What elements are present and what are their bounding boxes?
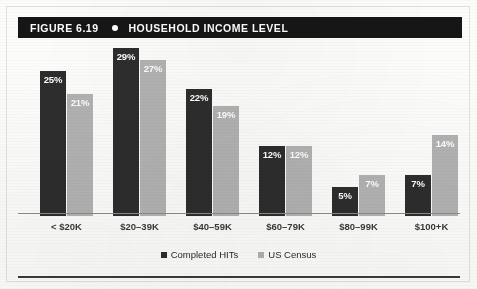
legend-item[interactable]: US Census — [258, 249, 316, 260]
bar-group: 12%12% — [259, 48, 312, 216]
x-axis-tick-label: $80–99K — [319, 221, 399, 232]
bar-value-label: 7% — [405, 179, 431, 189]
x-axis-labels: < $20K$20–39K$40–59K$60–79K$80–99K$100+K — [18, 221, 462, 237]
bar-completed-hits[interactable]: 7% — [405, 175, 431, 216]
x-axis-tick-label: $60–79K — [246, 221, 326, 232]
bar-value-label: 25% — [40, 75, 66, 85]
bar-value-label: 14% — [432, 139, 458, 149]
bar-us-census[interactable]: 21% — [67, 94, 93, 216]
bar-group: 25%21% — [40, 48, 93, 216]
legend-label: US Census — [268, 249, 316, 260]
bar-value-label: 5% — [332, 191, 358, 201]
figure-title-bar: FIGURE 6.19 HOUSEHOLD INCOME LEVEL — [18, 17, 462, 38]
bar-completed-hits[interactable]: 29% — [113, 48, 139, 216]
bar-value-label: 27% — [140, 64, 166, 74]
bar-us-census[interactable]: 7% — [359, 175, 385, 216]
bar-us-census[interactable]: 12% — [286, 146, 312, 216]
bar-us-census[interactable]: 14% — [432, 135, 458, 216]
bar-completed-hits[interactable]: 12% — [259, 146, 285, 216]
legend-item[interactable]: Completed HITs — [161, 249, 239, 260]
chart-plot-area: 25%21%29%27%22%19%12%12%5%7%7%14% — [18, 48, 462, 216]
bar-value-label: 12% — [259, 150, 285, 160]
x-axis-tick-label: < $20K — [27, 221, 107, 232]
bottom-rule — [18, 276, 460, 278]
chart-legend: Completed HITsUS Census — [0, 249, 477, 260]
legend-swatch-icon — [258, 252, 264, 258]
bar-group: 22%19% — [186, 48, 239, 216]
bar-group: 29%27% — [113, 48, 166, 216]
figure-number: FIGURE 6.19 — [30, 22, 99, 34]
scanned-page: FIGURE 6.19 HOUSEHOLD INCOME LEVEL 25%21… — [0, 0, 477, 289]
bar-value-label: 7% — [359, 179, 385, 189]
bar-completed-hits[interactable]: 5% — [332, 187, 358, 216]
bar-group: 7%14% — [405, 48, 458, 216]
bar-completed-hits[interactable]: 25% — [40, 71, 66, 216]
bar-us-census[interactable]: 19% — [213, 106, 239, 216]
legend-swatch-icon — [161, 252, 167, 258]
bar-value-label: 29% — [113, 52, 139, 62]
x-axis-tick-label: $100+K — [392, 221, 472, 232]
bar-value-label: 12% — [286, 150, 312, 160]
bar-group: 5%7% — [332, 48, 385, 216]
x-axis-line — [18, 213, 460, 214]
bar-value-label: 22% — [186, 93, 212, 103]
bar-completed-hits[interactable]: 22% — [186, 89, 212, 216]
x-axis-tick-label: $20–39K — [100, 221, 180, 232]
bar-value-label: 21% — [67, 98, 93, 108]
page-title: HOUSEHOLD INCOME LEVEL — [129, 22, 289, 34]
bullet-dot-icon — [112, 25, 118, 31]
bar-us-census[interactable]: 27% — [140, 60, 166, 216]
legend-label: Completed HITs — [171, 249, 239, 260]
x-axis-tick-label: $40–59K — [173, 221, 253, 232]
bar-value-label: 19% — [213, 110, 239, 120]
